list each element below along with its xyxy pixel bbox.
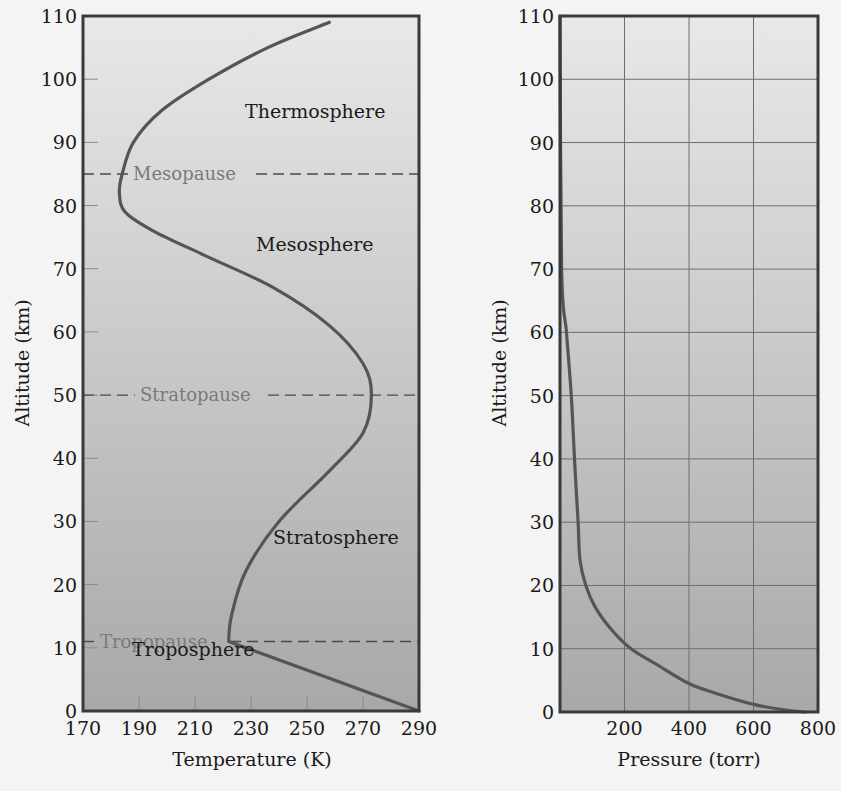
y-tick-label: 20 <box>530 574 554 596</box>
y-axis-ticks: 0102030405060708090100110 <box>518 5 554 723</box>
x-tick-label: 270 <box>345 717 381 739</box>
y-tick-label: 90 <box>53 131 77 153</box>
y-tick-label: 40 <box>530 448 554 470</box>
x-tick-label: 800 <box>800 717 836 739</box>
temperature-altitude-chart: 0102030405060708090100110 17019021023025… <box>11 5 437 770</box>
x-tick-label: 600 <box>735 717 771 739</box>
x-tick-label: 200 <box>606 717 642 739</box>
y-tick-label: 30 <box>53 510 77 532</box>
y-tick-label: 10 <box>53 637 77 659</box>
x-tick-label: 230 <box>233 717 269 739</box>
y-tick-label: 110 <box>41 5 77 27</box>
x-tick-label: 190 <box>121 717 157 739</box>
atmosphere-figure: 0102030405060708090100110 17019021023025… <box>0 0 841 791</box>
x-tick-label: 400 <box>671 717 707 739</box>
y-tick-label: 60 <box>53 321 77 343</box>
x-axis-ticks: 200400600800 <box>606 717 836 739</box>
y-tick-label: 100 <box>518 68 554 90</box>
y-tick-label: 70 <box>53 258 77 280</box>
y-axis-label: Altitude (km) <box>11 299 33 427</box>
y-tick-label: 40 <box>53 447 77 469</box>
y-tick-label: 80 <box>53 195 77 217</box>
y-axis-label: Altitude (km) <box>488 299 510 427</box>
mesopause-label: Mesopause <box>133 163 236 184</box>
x-axis-label: Pressure (torr) <box>617 748 760 770</box>
y-tick-label: 90 <box>530 132 554 154</box>
y-tick-label: 60 <box>530 321 554 343</box>
figure-canvas: 0102030405060708090100110 17019021023025… <box>0 0 841 791</box>
y-tick-label: 10 <box>530 638 554 660</box>
pressure-altitude-chart: 0102030405060708090100110 200400600800 P… <box>488 5 836 770</box>
x-tick-label: 290 <box>401 717 437 739</box>
y-tick-label: 30 <box>530 511 554 533</box>
thermosphere-label: Thermosphere <box>245 100 385 122</box>
troposphere-label: Troposphere <box>132 638 255 660</box>
x-tick-label: 250 <box>289 717 325 739</box>
x-tick-label: 210 <box>177 717 213 739</box>
y-tick-label: 80 <box>530 195 554 217</box>
y-tick-label: 50 <box>53 384 77 406</box>
y-tick-label: 110 <box>518 5 554 27</box>
y-tick-label: 0 <box>542 701 554 723</box>
mesosphere-label: Mesosphere <box>256 233 374 255</box>
y-tick-label: 100 <box>41 68 77 90</box>
x-tick-label: 170 <box>65 717 101 739</box>
x-axis-label: Temperature (K) <box>172 748 332 770</box>
stratosphere-label: Stratosphere <box>273 526 399 548</box>
y-tick-label: 20 <box>53 574 77 596</box>
stratopause-label: Stratopause <box>140 384 251 405</box>
y-tick-label: 50 <box>530 385 554 407</box>
y-tick-label: 70 <box>530 258 554 280</box>
